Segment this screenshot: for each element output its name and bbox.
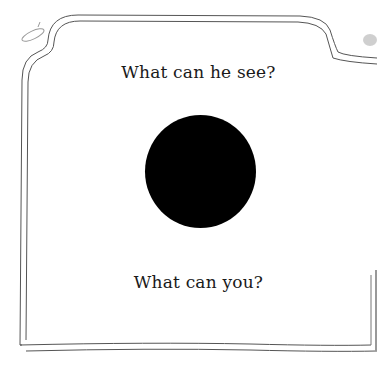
- black-circle-illustration: [145, 115, 256, 228]
- caption-top: What can he see?: [10, 62, 377, 82]
- smudge-mark-icon: [363, 34, 377, 46]
- pencil-sketch-icon: [20, 22, 45, 44]
- caption-bottom: What can you?: [10, 272, 377, 292]
